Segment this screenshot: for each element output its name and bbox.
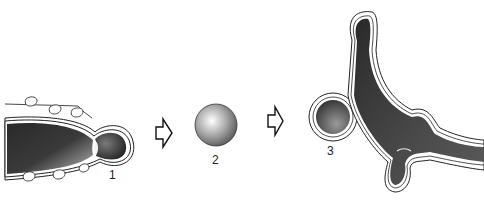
stage-3-label: 3 xyxy=(327,144,334,158)
stage-3-germinated xyxy=(309,12,484,192)
hollow-arrow-right-icon xyxy=(268,107,283,135)
hollow-arrow-right-icon xyxy=(156,119,172,147)
stage-2-sphere xyxy=(195,104,237,146)
diagram-canvas xyxy=(0,0,484,201)
stage-2-label: 2 xyxy=(212,153,219,167)
stage-1-label: 1 xyxy=(109,168,116,182)
